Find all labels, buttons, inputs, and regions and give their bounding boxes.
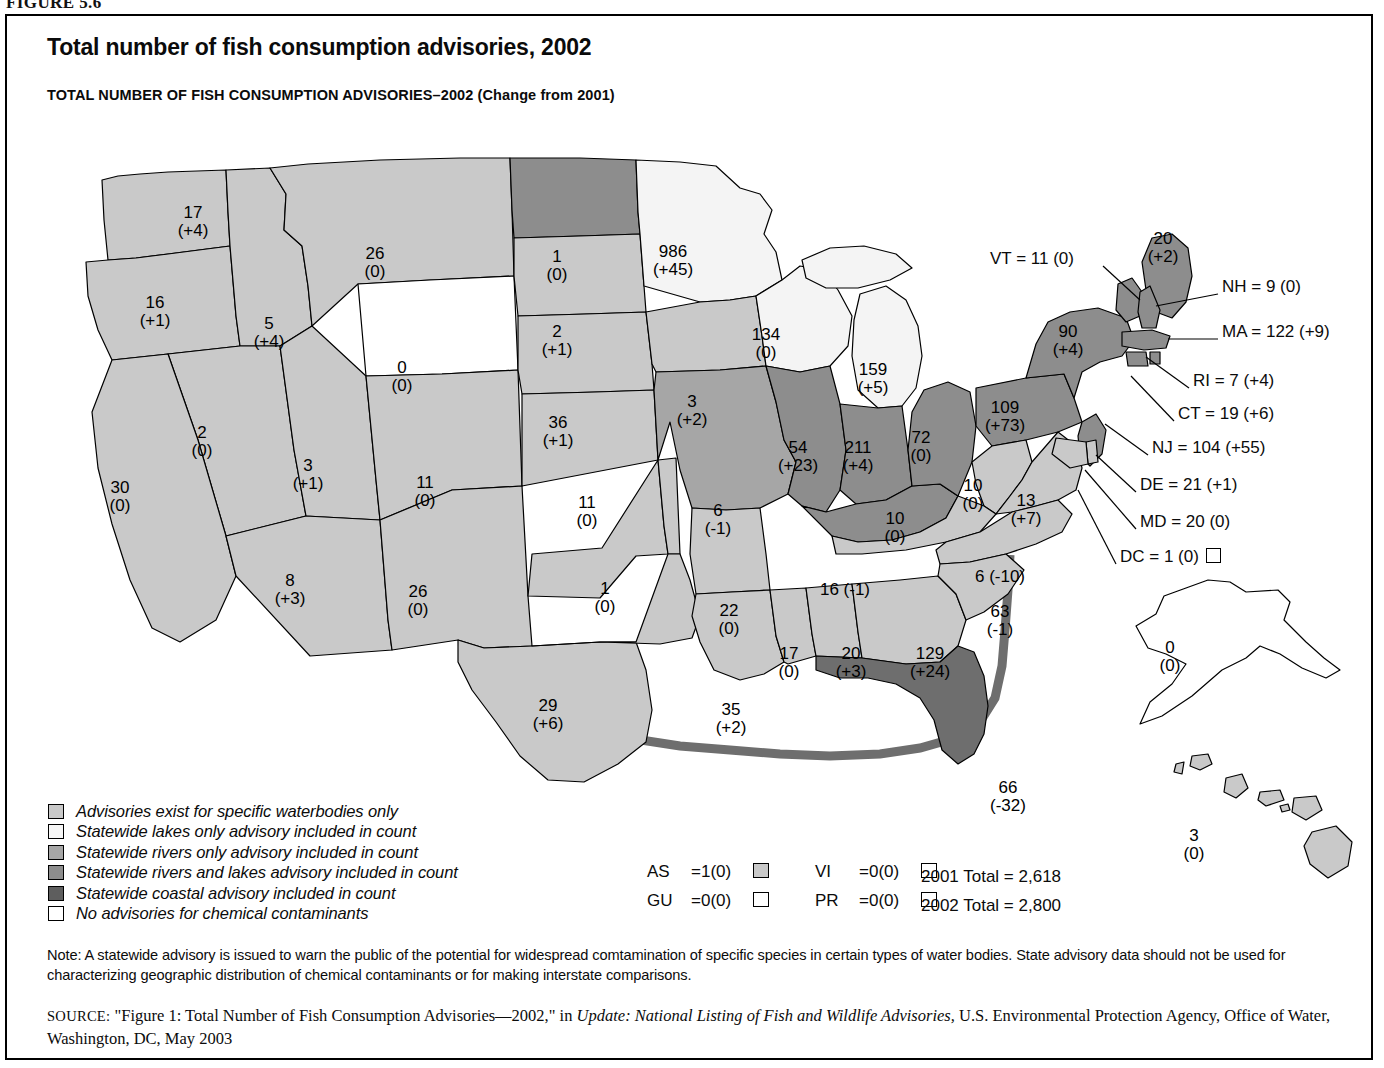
state-WA[interactable] — [102, 170, 230, 260]
state-label-GA: 129(+24) — [910, 645, 950, 680]
state-NM[interactable] — [380, 486, 532, 650]
state-label-KS: 11(0) — [577, 494, 598, 529]
state-ND[interactable] — [510, 158, 640, 238]
state-label-HI: 3(0) — [1184, 827, 1205, 862]
state-label-CA: 30(0) — [110, 479, 131, 514]
callout-nj: NJ = 104 (+55) — [1152, 438, 1265, 458]
dc-swatch-icon — [1206, 548, 1221, 563]
legend-swatch-lakes-icon — [48, 824, 64, 839]
callout-vt: VT = 11 (0) — [990, 249, 1074, 269]
source-publication: Update: National Listing of Fish and Wil… — [577, 1006, 955, 1025]
legend-label-rivers: Statewide rivers only advisory included … — [76, 843, 418, 862]
state-label-UT: 3(+1) — [293, 457, 324, 492]
legend-row-lakes[interactable]: Statewide lakes only advisory included i… — [48, 822, 458, 843]
state-label-AR: 22(0) — [719, 602, 740, 637]
state-label-WY: 0(0) — [392, 359, 413, 394]
callout-ct: CT = 19 (+6) — [1178, 404, 1274, 424]
state-label-WV: 10(0) — [963, 477, 984, 512]
state-label-AL: 20(+3) — [836, 645, 867, 680]
territory-code-pr: PR — [815, 891, 859, 920]
state-MIUP[interactable] — [802, 246, 912, 288]
legend-row-rivers[interactable]: Statewide rivers only advisory included … — [48, 842, 458, 863]
legend-swatch-coastal-icon — [48, 886, 64, 901]
legend-label-specific: Advisories exist for specific waterbodie… — [76, 802, 398, 821]
state-label-NE: 36(+1) — [543, 414, 574, 449]
state-VT[interactable] — [1116, 278, 1142, 322]
state-label-OR: 16(+1) — [140, 294, 171, 329]
legend-row-none[interactable]: No advisories for chemical contaminants — [48, 904, 458, 925]
legend-label-lakes: Statewide lakes only advisory included i… — [76, 822, 416, 841]
state-label-KY: 10(0) — [885, 510, 906, 545]
legend-row-specific[interactable]: Advisories exist for specific waterbodie… — [48, 801, 458, 822]
totals-block: 2001 Total = 2,618 2002 Total = 2,800 — [921, 862, 1061, 920]
state-label-MO: 6(-1) — [705, 502, 731, 537]
state-label-FL: 66(-32) — [990, 779, 1026, 814]
state-label-ME: 20(+2) — [1148, 230, 1179, 265]
state-label-ND: 1(0) — [547, 248, 568, 283]
callout-nh: NH = 9 (0) — [1222, 277, 1301, 297]
state-label-OK: 1(0) — [595, 580, 616, 615]
legend-swatch-rivers-icon — [48, 845, 64, 860]
figure-note: Note: A statewide advisory is issued to … — [47, 945, 1337, 985]
territory-value-pr: =0(0) — [859, 891, 921, 920]
total-2001: 2001 Total = 2,618 — [921, 862, 1061, 891]
state-label-ID: 5(+4) — [254, 315, 285, 350]
territory-row-gu-pr: GU =0(0) PR =0(0) — [647, 891, 937, 920]
legend-label-coastal: Statewide coastal advisory included in c… — [76, 884, 395, 903]
state-label-TX: 29(+6) — [533, 697, 564, 732]
state-label-MS: 17(0) — [779, 645, 800, 680]
legend-swatch-specific-icon — [48, 804, 64, 819]
state-label-TN: 16 (-1) — [820, 581, 870, 598]
state-label-AK: 0(0) — [1160, 639, 1181, 674]
state-label-SC: 63(-1) — [987, 603, 1013, 638]
callout-ri: RI = 7 (+4) — [1193, 371, 1274, 391]
state-label-NC: 6 (-10) — [975, 568, 1025, 585]
us-map-svg — [40, 150, 1140, 790]
figure-source: SOURCE: "Figure 1: Total Number of Fish … — [47, 1004, 1337, 1051]
legend-swatch-none-icon — [48, 906, 64, 921]
state-label-WI: 134(0) — [752, 326, 780, 361]
legend-row-rivers-lakes[interactable]: Statewide rivers and lakes advisory incl… — [48, 863, 458, 884]
callout-md: MD = 20 (0) — [1140, 512, 1230, 532]
state-label-VA: 13(+7) — [1011, 492, 1042, 527]
state-label-IN: 211(+4) — [843, 439, 874, 474]
state-label-NY: 90(+4) — [1053, 323, 1084, 358]
territory-value-vi: =0(0) — [859, 862, 921, 891]
source-in: in — [560, 1006, 573, 1025]
callout-dc: DC = 1 (0) — [1120, 547, 1221, 567]
source-prefix: SOURCE: — [47, 1008, 110, 1024]
legend-row-coastal[interactable]: Statewide coastal advisory included in c… — [48, 883, 458, 904]
state-label-OH: 72(0) — [911, 429, 932, 464]
territories-block: AS =1(0) VI =0(0) GU =0(0) PR =0(0) — [647, 862, 937, 920]
state-WY[interactable] — [358, 276, 518, 376]
state-label-PA: 109(+73) — [985, 399, 1025, 434]
state-AZ[interactable] — [226, 516, 392, 656]
state-CT[interactable] — [1126, 352, 1148, 366]
legend-swatch-rivers-lakes-icon — [48, 865, 64, 880]
state-label-MN: 986(+45) — [653, 243, 693, 278]
territory-code-as: AS — [647, 862, 691, 891]
callout-de: DE = 21 (+1) — [1140, 475, 1237, 495]
state-NE[interactable] — [518, 312, 654, 394]
source-quote: "Figure 1: Total Number of Fish Consumpt… — [114, 1006, 555, 1025]
state-RI[interactable] — [1150, 352, 1160, 364]
territory-value-gu: =0(0) — [691, 891, 753, 920]
state-MN[interactable] — [636, 160, 782, 302]
territory-swatch-gu-icon — [753, 891, 769, 920]
territory-code-gu: GU — [647, 891, 691, 920]
state-SD[interactable] — [514, 234, 646, 316]
state-label-MT: 26(0) — [365, 245, 386, 280]
legend-label-none: No advisories for chemical contaminants — [76, 904, 368, 923]
state-label-MI: 159(+5) — [858, 361, 889, 396]
state-label-IL: 54(+23) — [778, 439, 818, 474]
legend-label-rivers-lakes: Statewide rivers and lakes advisory incl… — [76, 863, 458, 882]
state-label-SD: 2(+1) — [542, 323, 573, 358]
territory-code-vi: VI — [815, 862, 859, 891]
state-label-CO: 11(0) — [415, 474, 436, 509]
territory-value-as: =1(0) — [691, 862, 753, 891]
state-MA[interactable] — [1122, 330, 1170, 350]
territory-swatch-as-icon — [753, 862, 769, 891]
state-IA[interactable] — [646, 296, 766, 372]
total-2002: 2002 Total = 2,800 — [921, 891, 1061, 920]
map-legend: Advisories exist for specific waterbodie… — [48, 801, 458, 924]
